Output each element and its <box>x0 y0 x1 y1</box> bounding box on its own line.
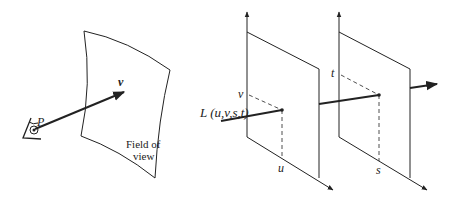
ray-segment-between <box>319 95 379 104</box>
s-axis <box>339 137 427 190</box>
field-of-view-label-line1: Field of <box>126 138 161 150</box>
ray-exit-arrow <box>410 84 437 88</box>
uv-plane-edge <box>247 32 319 178</box>
s-label: s <box>376 163 381 177</box>
vector-label: v <box>118 75 124 89</box>
field-of-view-label-line2: view <box>133 150 154 162</box>
view-vector-arrow <box>35 92 124 129</box>
v-projection-dashed <box>249 95 282 110</box>
st-plane-edge <box>339 32 410 178</box>
u-label: u <box>278 161 284 175</box>
uv-plane: v u <box>238 12 333 190</box>
field-of-view-figure: P v Field of view <box>23 31 170 178</box>
v-label: v <box>238 87 244 101</box>
t-label: t <box>331 66 335 80</box>
t-projection-dashed <box>341 75 379 95</box>
point-label: P <box>36 115 45 129</box>
light-field-diagram: P v Field of view v u t s L (u,v,s,t) <box>0 0 453 198</box>
u-axis <box>247 137 333 190</box>
light-field-function-label: L (u,v,s,t) <box>199 105 249 120</box>
light-ray <box>221 84 437 121</box>
